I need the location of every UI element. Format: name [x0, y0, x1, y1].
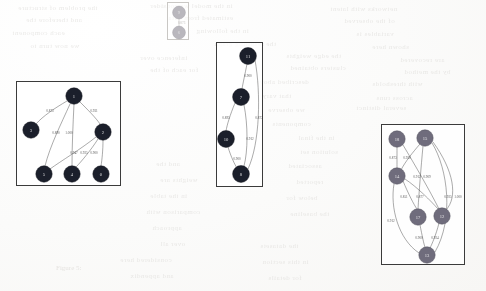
edge-label-group: 0.873: [178, 21, 186, 25]
figure-caption: Figure 5:: [56, 264, 81, 272]
edge-weight-label: 0.873: [46, 109, 54, 113]
graph-edge: [405, 179, 438, 209]
edge-weight-label: 0.873: [178, 21, 186, 25]
graph-edge: [244, 105, 247, 166]
cluster-six-node-dense: 0.8730.9300.9120.9090.8510.8770.9120.900…: [381, 124, 465, 265]
figure-page: the problem of structurein the model we …: [0, 0, 486, 291]
node-label: 12: [440, 214, 445, 219]
edge-weight-label: 0.912: [387, 219, 395, 223]
edge-weight-label: 0.900: [233, 157, 241, 161]
edge-weight-label: 0.895: [222, 116, 230, 120]
node-label: 17: [416, 215, 421, 220]
node-group: 132540: [23, 88, 111, 182]
edge-weight-label: 0.909: [423, 175, 431, 179]
node-label: 15: [423, 136, 428, 141]
edge-weight-label: 0.912: [413, 175, 421, 179]
graph-edge: [101, 140, 103, 166]
edge-weight-label: 0.851: [400, 195, 408, 199]
graph-canvas: 0.87396: [168, 3, 190, 41]
graph-edge: [45, 104, 70, 166]
edge-weight-label: 0.925: [444, 195, 452, 199]
edge-group: [226, 60, 259, 169]
graph-canvas: 0.8730.9300.9120.9090.8510.8770.9120.900…: [382, 125, 466, 266]
node-label: 11: [246, 54, 251, 59]
edge-weight-label: 0.890: [52, 131, 60, 135]
cluster-four-node-chain: 0.9000.8730.8950.9120.900117108: [216, 42, 263, 187]
cluster-six-node-tree: 0.8730.9310.8901.0000.9470.9250.90013254…: [16, 81, 121, 186]
edge-weight-label: 0.900: [244, 74, 252, 78]
cluster-faint-pair: 0.87396: [167, 2, 189, 40]
node-label: 10: [224, 137, 229, 142]
edge-weight-label: 0.925: [80, 151, 88, 155]
node-label: 18: [395, 137, 400, 142]
edge-weight-label: 0.931: [90, 109, 98, 113]
graph-edge: [403, 145, 439, 209]
edge-weight-label: 0.900: [90, 151, 98, 155]
edge-weight-label: 0.930: [403, 156, 411, 160]
edge-weight-label: 0.873: [255, 116, 263, 120]
edge-weight-label: 0.877: [416, 195, 424, 199]
edge-weight-label: 0.912: [246, 137, 254, 141]
edge-weight-label: 0.924: [431, 236, 439, 240]
graph-edge: [72, 104, 74, 166]
edge-weight-label: 0.947: [70, 151, 78, 155]
edge-weight-label: 1.000: [65, 131, 73, 135]
graph-canvas: 0.9000.8730.8950.9120.900117108: [217, 43, 264, 188]
edge-weight-label: 1.000: [454, 195, 462, 199]
graph-canvas: 0.8730.9310.8901.0000.9470.9250.90013254…: [17, 82, 122, 187]
node-label: 14: [395, 174, 400, 179]
graph-edge: [433, 142, 453, 210]
edge-weight-label: 0.900: [415, 236, 423, 240]
edge-weight-label: 0.873: [389, 156, 397, 160]
node-label: 13: [425, 253, 430, 258]
graph-edge: [80, 102, 100, 124]
